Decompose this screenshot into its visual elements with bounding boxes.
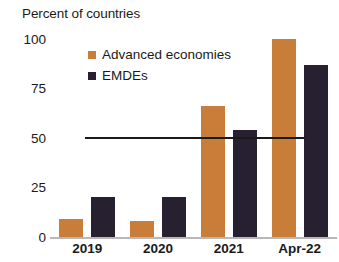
bar-advanced-economies-2021	[201, 106, 225, 237]
x-axis-baseline	[50, 237, 337, 239]
bar-advanced-economies-2019	[59, 219, 83, 237]
x-axis-tick-apr-22: Apr-22	[264, 241, 335, 257]
bar-emdes-2019	[91, 197, 115, 237]
chart-title: Percent of countries	[22, 6, 140, 21]
x-axis-tick-2019: 2019	[52, 241, 123, 257]
x-axis-tick-2020: 2020	[123, 241, 194, 257]
chart-container: Percent of countries 100 75 50 25 0 Adva…	[0, 0, 339, 262]
y-axis-tick-labels: 100 75 50 25 0	[14, 39, 46, 237]
bar-emdes-2020	[162, 197, 186, 237]
x-axis-tick-labels: 201920202021Apr-22	[52, 241, 335, 261]
bar-advanced-economies-2020	[130, 221, 154, 237]
y-axis-tick-50: 50	[16, 132, 46, 146]
x-axis-tick-2021: 2021	[194, 241, 265, 257]
reference-line-50	[85, 137, 305, 139]
y-axis-tick-0: 0	[16, 231, 46, 245]
bar-emdes-apr-22	[304, 65, 328, 237]
y-axis-tick-100: 100	[16, 33, 46, 47]
bar-emdes-2021	[233, 130, 257, 237]
y-axis-tick-25: 25	[16, 181, 46, 195]
y-axis-tick-75: 75	[16, 82, 46, 96]
